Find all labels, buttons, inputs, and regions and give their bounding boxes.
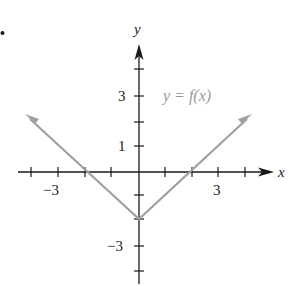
y-tick-label-3: 3: [118, 88, 126, 104]
y-axis: [134, 44, 144, 284]
x-tick-label-3: 3: [213, 182, 221, 198]
y-axis-label: y: [132, 21, 141, 37]
graph: y x −3 3 3 1 −3 y = f(x): [0, 0, 302, 286]
x-tick-label-neg3: −3: [43, 182, 59, 198]
function-label: y = f(x): [161, 87, 211, 105]
y-tick-label-neg3: −3: [107, 238, 123, 254]
x-axis: [18, 167, 274, 177]
curve-right-arrow-icon: [238, 114, 252, 124]
problem-bullet: [1, 31, 5, 35]
x-axis-label: x: [277, 164, 285, 180]
curve-left-arrow-icon: [25, 114, 39, 124]
y-tick-label-1: 1: [118, 138, 126, 154]
